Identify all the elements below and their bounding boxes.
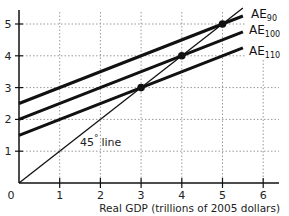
x-tick-4: 4 [178,189,185,202]
ae-chart: 0 1 2 3 4 5 6 1 2 3 4 5 AE90 AE100 AE110… [0,0,289,216]
ae110-label: AE110 [249,44,280,60]
x-tick-1: 1 [56,189,63,202]
ae100-line [19,32,243,120]
45-degree-line [19,8,243,183]
equilibrium-point-4 [178,52,186,60]
grid [19,12,279,183]
y-tick-4: 4 [5,50,12,63]
y-tick-3: 3 [5,82,12,95]
x-tick-3: 3 [138,189,145,202]
origin-label: 0 [8,189,15,202]
ae100-label: AE100 [249,23,280,39]
y-tick-2: 2 [5,113,12,126]
y-tick-1: 1 [5,145,12,158]
ae90-label: AE90 [251,7,277,23]
45-line-annotation: 45°line [80,133,122,149]
x-tick-5: 5 [219,189,226,202]
equilibrium-point-3 [137,84,145,92]
x-axis-label: Real GDP (trillions of 2005 dollars) [99,202,280,214]
equilibrium-point-5 [219,20,227,28]
y-tick-5: 5 [5,18,12,31]
x-tick-2: 2 [97,189,104,202]
x-tick-6: 6 [260,189,267,202]
